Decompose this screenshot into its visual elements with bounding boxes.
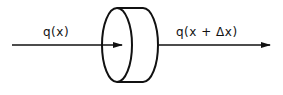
disk-back-arc bbox=[143, 8, 158, 82]
diagram-svg bbox=[0, 0, 283, 95]
output-flux-label: q(x + Δx) bbox=[176, 25, 238, 39]
input-flux-label: q(x) bbox=[43, 25, 69, 39]
diagram-canvas: q(x) q(x + Δx) bbox=[0, 0, 283, 95]
